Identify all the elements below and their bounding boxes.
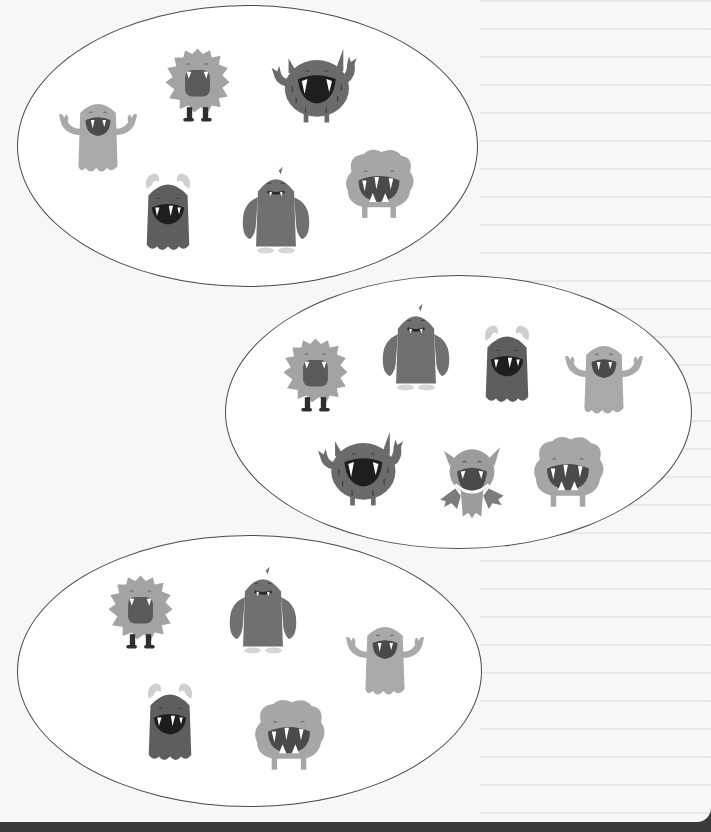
monster-ghost-light — [559, 337, 649, 417]
monster-yeti — [232, 163, 320, 258]
monster-horned-dark — [265, 45, 365, 130]
monster-furry — [160, 45, 235, 125]
bottom-edge-band — [0, 822, 711, 832]
monster-horned-dark — [310, 428, 413, 513]
monster-ghost-light — [53, 95, 143, 175]
monster-ghost-light — [340, 618, 430, 698]
worksheet-page — [0, 0, 711, 822]
monster-cloud — [526, 432, 610, 514]
monster-yeti — [372, 300, 460, 395]
monster-cloud — [247, 695, 331, 777]
monster-cloud — [338, 145, 420, 225]
monster-furry — [278, 335, 353, 415]
monster-horned-blob — [140, 680, 200, 765]
monster-horned-blob — [477, 322, 537, 407]
monster-bat — [434, 438, 510, 522]
monster-furry — [103, 572, 178, 652]
monster-yeti — [219, 563, 307, 658]
monster-horned-blob — [138, 170, 198, 255]
